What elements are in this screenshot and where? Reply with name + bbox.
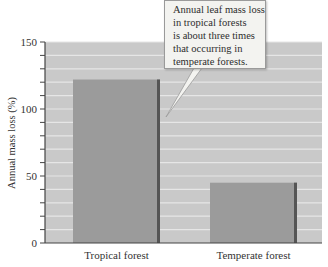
callout-text-line: in tropical forests <box>173 16 261 29</box>
y-tick-label: 150 <box>21 36 38 48</box>
callout-text-line: that occurring in <box>173 42 261 55</box>
bar-edge-shadow <box>294 183 297 243</box>
callout-text-line: Annual leaf mass loss <box>173 3 261 16</box>
x-category-labels: Tropical forestTemperate forest <box>84 249 290 261</box>
y-tick-label: 100 <box>21 103 38 115</box>
y-ticks: 050100150 <box>21 36 46 249</box>
y-tick-label: 0 <box>32 237 38 249</box>
callout-text-line: temperate forests. <box>173 55 261 68</box>
annotation-callout: Annual leaf mass lossin tropical forests… <box>164 0 266 69</box>
x-category-label: Tropical forest <box>84 249 149 261</box>
callout-text-line: is about three times <box>173 29 261 42</box>
x-category-label: Temperate forest <box>216 249 290 261</box>
bar-edge-shadow <box>157 80 160 243</box>
bar <box>210 183 297 243</box>
y-tick-label: 50 <box>26 170 38 182</box>
y-axis-label: Annual mass loss (%) <box>6 97 18 189</box>
bar <box>73 80 160 243</box>
